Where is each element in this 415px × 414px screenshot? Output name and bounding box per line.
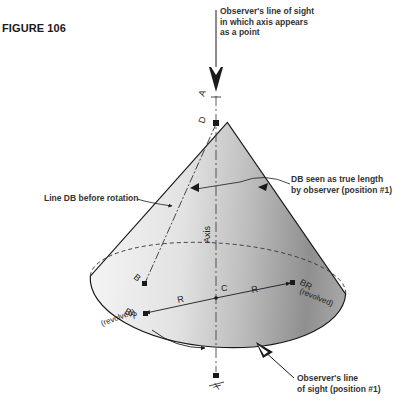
bottom-observer-arrow <box>256 342 294 378</box>
x-marker <box>213 373 219 378</box>
axis-label: Axis <box>202 225 212 243</box>
cone-body <box>86 114 357 356</box>
cone-diagram: A D Axis B C R R BR (revolved) BR (revol… <box>0 0 415 414</box>
br-left-marker <box>143 311 148 316</box>
point-a-label: A <box>196 89 207 98</box>
point-d-label: D <box>196 115 208 125</box>
point-c-label: C <box>221 283 228 293</box>
top-observer-arrow <box>209 10 223 92</box>
br-right-marker <box>290 280 295 285</box>
point-b-marker <box>142 281 147 286</box>
